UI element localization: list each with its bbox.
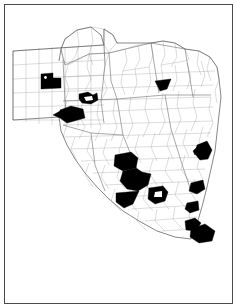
map-plate [5, 5, 232, 303]
shaded-municipality-central-block-north [114, 152, 138, 171]
figure-container [0, 0, 237, 308]
region-map [5, 5, 232, 303]
enclave-hole-west-grid-cell [44, 76, 47, 79]
